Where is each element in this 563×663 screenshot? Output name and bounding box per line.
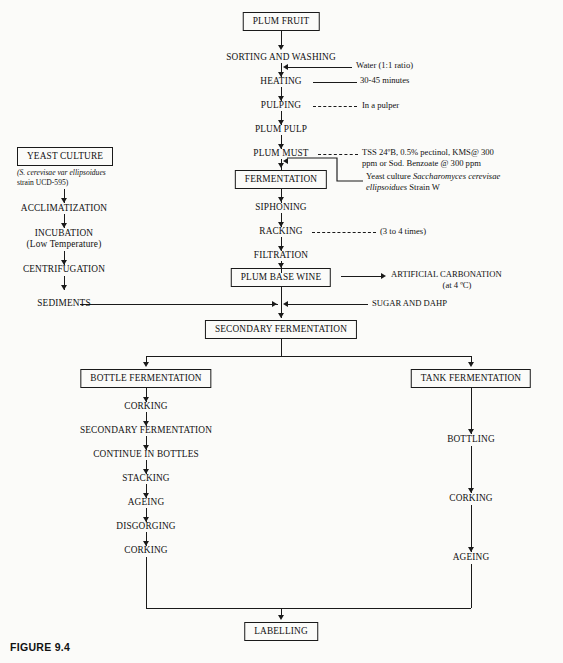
connector-must-additives-dashed xyxy=(318,154,358,155)
node-bottle-continue-in-bottles: CONTINUE IN BOTTLES xyxy=(93,449,199,460)
node-plum-base-wine: PLUM BASE WINE xyxy=(231,268,331,287)
node-tank-bottling: BOTTLING xyxy=(447,434,495,445)
node-incubation-note: (Low Temperature) xyxy=(27,239,102,250)
node-sediments: SEDIMENTS xyxy=(37,298,91,309)
node-plum-fruit: PLUM FRUIT xyxy=(243,12,320,31)
annotation-yeast-inoculum-line1: Yeast culture Saccharomyces cerevisae xyxy=(366,171,500,183)
node-yeast-culture: YEAST CULTURE xyxy=(17,147,113,166)
node-bottle-disgorging: DISGORGING xyxy=(116,521,175,532)
connector-sugar-dahp-feed xyxy=(288,304,368,305)
arrowhead-tank-fermentation xyxy=(468,362,474,367)
arrowhead-bottle-fermentation xyxy=(143,362,149,367)
node-incubation: INCUBATION xyxy=(35,228,93,239)
arrowhead-artificial-carbonation xyxy=(381,273,386,279)
yeast-strain-species: (S. cerevisae var ellipsoidues xyxy=(17,168,106,177)
yeast-inoculum-species: Saccharomyces cerevisae xyxy=(413,171,500,181)
node-filtration: FILTRATION xyxy=(254,250,308,261)
connector-tank-bottling xyxy=(471,388,472,434)
arrowhead-secondary-fermentation xyxy=(278,313,284,318)
connector-secondary-split-stem xyxy=(281,339,282,356)
connector-water-feed xyxy=(288,67,352,68)
connector-basewine-junction xyxy=(281,287,282,305)
node-heating: HEATING xyxy=(260,76,301,87)
node-bottle-corking-1: CORKING xyxy=(124,401,167,412)
node-labelling: LABELLING xyxy=(244,622,318,641)
yeast-inoculum-species2: ellipsoidues xyxy=(366,182,407,192)
arrowhead-sorting xyxy=(278,45,284,50)
arrowhead-additive-feed xyxy=(283,158,288,164)
annotation-pulper: In a pulper xyxy=(362,100,399,112)
node-plum-pulp: PLUM PULP xyxy=(255,124,307,135)
node-tank-ageing: AGEING xyxy=(453,552,490,563)
annotation-artificial-carbonation-temp: (at 4 ºC) xyxy=(443,280,472,292)
connector-heating-time xyxy=(313,82,357,83)
node-tank-corking: CORKING xyxy=(449,493,492,504)
connector-secondary-split-bar xyxy=(146,356,471,357)
connector-bottle-merge-down xyxy=(146,557,147,608)
yeast-inoculum-tail: Strain W xyxy=(407,182,440,192)
node-centrifugation: CENTRIFUGATION xyxy=(23,264,105,275)
yeast-inoculum-lead: Yeast culture xyxy=(366,171,413,181)
connector-tank-bottling-corking xyxy=(471,446,472,493)
node-tank-fermentation: TANK FERMENTATION xyxy=(411,369,531,388)
connector-tank-corking-ageing xyxy=(471,505,472,552)
annotation-racking-times: (3 to 4 times) xyxy=(380,226,426,238)
node-acclimatization: ACCLIMATIZATION xyxy=(21,203,107,214)
figure-9-4-flowchart: PLUM FRUIT SORTING AND WASHING Water (1:… xyxy=(0,0,563,663)
arrowhead-sediments xyxy=(61,285,67,290)
arrowhead-fermentation xyxy=(278,163,284,168)
node-bottle-secondary-fermentation: SECONDARY FERMENTATION xyxy=(80,425,212,436)
node-bottle-corking-2: CORKING xyxy=(124,545,167,556)
node-siphoning: SIPHONING xyxy=(255,202,306,213)
annotation-sugar-and-dahp: SUGAR AND DAHP xyxy=(372,298,447,310)
annotation-must-additives-line1: TSS 24ºB, 0.5% pectinol, KMS@ 300 xyxy=(362,147,494,159)
annotation-heating-time: 30-45 minutes xyxy=(360,75,409,87)
annotation-water: Water (1:1 ratio) xyxy=(356,60,413,72)
connector-merge-bar xyxy=(146,608,471,609)
node-secondary-fermentation: SECONDARY FERMENTATION xyxy=(205,320,357,339)
annotation-yeast-inoculum-line2: ellipsoidues Strain W xyxy=(366,182,440,194)
arrowhead-water-feed xyxy=(283,64,288,70)
node-sorting-and-washing: SORTING AND WASHING xyxy=(226,52,336,63)
connector-artificial-carbonation xyxy=(341,276,383,277)
arrowhead-sediments-feed xyxy=(272,301,277,307)
yeast-strain-line1: (S. cerevisae var ellipsoidues xyxy=(17,168,106,178)
annotation-artificial-carbonation: ARTIFICIAL CARBONATION xyxy=(391,269,502,281)
connector-sediments-feed xyxy=(80,304,278,305)
connector-tank-merge-down xyxy=(471,564,472,608)
figure-caption: FIGURE 9.4 xyxy=(10,641,70,653)
node-bottle-fermentation: BOTTLE FERMENTATION xyxy=(80,369,211,388)
node-bottle-stacking: STACKING xyxy=(122,473,169,484)
connector-racking-times-dashed xyxy=(312,232,376,233)
yeast-strain-line2: strain UCD-595) xyxy=(17,178,68,188)
node-racking: RACKING xyxy=(259,226,302,237)
node-bottle-ageing: AGEING xyxy=(128,497,165,508)
arrowhead-sugar-dahp-feed xyxy=(283,301,288,307)
connector-pulper-dashed xyxy=(313,106,357,107)
node-plum-must: PLUM MUST xyxy=(253,148,308,159)
arrowhead-labelling xyxy=(278,615,284,620)
annotation-must-additives-line2: ppm or Sod. Benzoate @ 300 ppm xyxy=(362,158,481,170)
node-fermentation: FERMENTATION xyxy=(235,170,327,189)
node-pulping: PULPING xyxy=(261,100,301,111)
